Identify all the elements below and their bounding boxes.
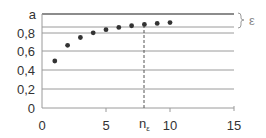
data-point — [168, 20, 173, 25]
y-tick-label: 0,2 — [17, 82, 35, 97]
epsilon-label: ε — [249, 13, 255, 28]
n-epsilon-label: nε — [139, 116, 150, 133]
convergence-chart: 0 0,2 0,4 0,6 0,8 a 0 5 10 15 nε ε — [0, 0, 266, 138]
data-point — [129, 23, 134, 28]
gridlines — [42, 14, 234, 89]
data-point — [142, 22, 147, 27]
data-point — [116, 25, 121, 30]
y-tick-label: 0,8 — [17, 26, 35, 41]
data-point — [52, 59, 57, 64]
y-tick-label: 0 — [28, 101, 35, 116]
data-point — [65, 43, 70, 48]
epsilon-brace-icon — [238, 13, 244, 28]
data-point — [155, 21, 160, 26]
data-point — [91, 30, 96, 35]
x-tick-label: 15 — [227, 118, 241, 133]
x-tick-label: 10 — [163, 118, 177, 133]
x-tick-label: 5 — [102, 118, 109, 133]
y-tick-label: 0,6 — [17, 44, 35, 59]
data-point — [78, 35, 83, 40]
y-tick-label: 0,4 — [17, 63, 35, 78]
x-tick-label: 0 — [38, 118, 45, 133]
data-point — [104, 27, 109, 32]
limit-label-a: a — [29, 7, 37, 22]
